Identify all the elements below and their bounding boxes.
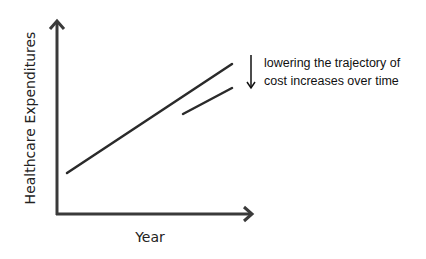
annotation-line-2: cost increases over time [264,72,400,90]
diagram-canvas [0,0,426,259]
current-trajectory-line [67,64,232,173]
x-axis [56,207,252,221]
down-arrow-icon [247,55,255,88]
x-axis-label: Year [135,229,165,245]
y-axis-label: Healthcare Expenditures [22,32,38,205]
annotation-line-1: lowering the trajectory of [264,54,400,72]
annotation-text: lowering the trajectory of cost increase… [264,54,400,90]
y-axis [50,21,64,215]
